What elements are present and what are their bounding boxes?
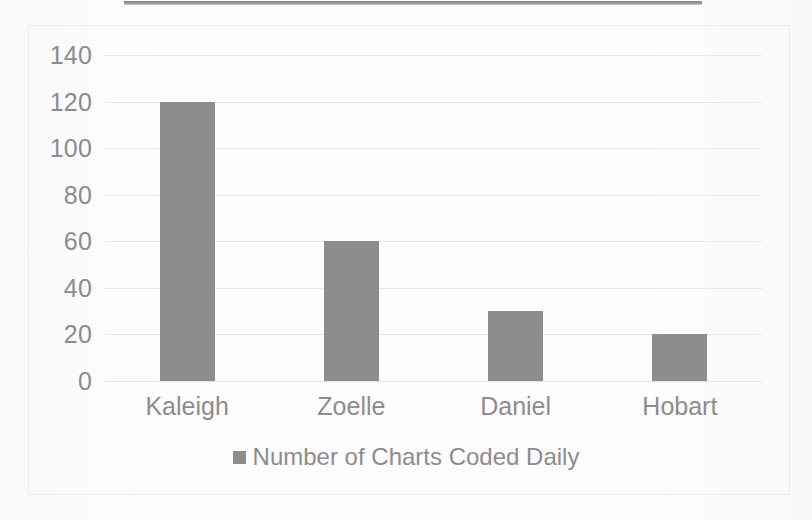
y-axis-tick-label: 80: [64, 180, 92, 209]
y-axis-tick-label: 40: [64, 273, 92, 302]
x-axis-category-label: Hobart: [642, 392, 717, 421]
bar: [160, 102, 215, 381]
y-axis-tick-label: 20: [64, 320, 92, 349]
x-axis-category-label: Kaleigh: [145, 392, 228, 421]
bar: [324, 241, 379, 381]
y-axis-tick-label: 0: [78, 367, 92, 396]
x-axis-category-label: Zoelle: [317, 392, 385, 421]
y-axis-tick-label: 140: [50, 41, 92, 70]
gridline: [105, 55, 762, 56]
x-axis-category-label: Daniel: [480, 392, 551, 421]
y-axis-tick-label: 60: [64, 227, 92, 256]
bar: [652, 334, 707, 381]
y-axis-tick-label: 120: [50, 87, 92, 116]
chart-legend: Number of Charts Coded Daily: [0, 443, 812, 471]
y-axis-tick-label: 100: [50, 134, 92, 163]
plot-area: 140120100806040200: [105, 55, 762, 381]
legend-label: Number of Charts Coded Daily: [253, 443, 580, 471]
bar: [488, 311, 543, 381]
legend-color-swatch-icon: [233, 451, 246, 464]
gridline: [105, 381, 762, 382]
top-rule-divider: [124, 1, 702, 5]
